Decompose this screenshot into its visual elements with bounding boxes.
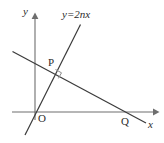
x-axis-arrow-icon — [153, 109, 160, 116]
geometry-figure: y x O P Q y=2nx — [0, 0, 164, 143]
x-axis-label: x — [148, 119, 153, 130]
origin-label: O — [38, 113, 46, 124]
point-p-label: P — [48, 57, 54, 68]
y-axis — [32, 13, 39, 121]
point-q-label: Q — [121, 116, 129, 127]
x-axis — [12, 109, 160, 116]
y-axis-arrow-icon — [32, 13, 39, 20]
line-y-equals-2nx — [25, 25, 81, 136]
line-equation-label: y=2nx — [62, 9, 90, 20]
y-axis-label: y — [23, 6, 28, 17]
figure-canvas — [0, 0, 164, 143]
